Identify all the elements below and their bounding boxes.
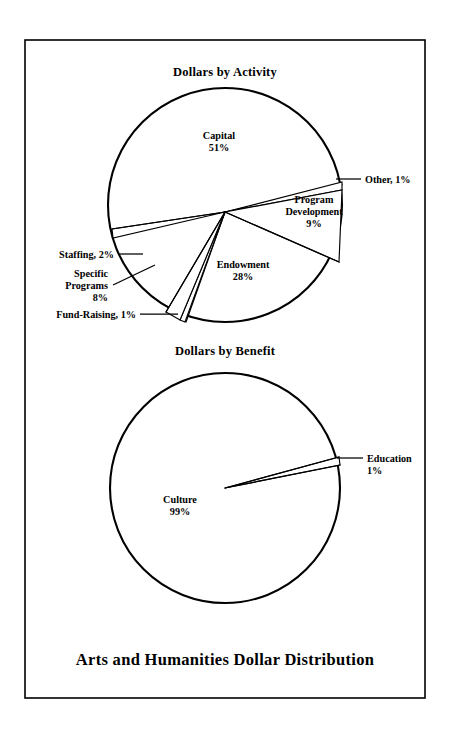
chart1-label-fund-raising: Fund-Raising, 1% [56,309,178,320]
chart2-label-culture-value: 99% [170,506,190,517]
chart2-label-education-value: 1% [367,465,382,476]
figure-root: Dollars by Activity Capital 51% [0,0,449,731]
chart2-label-education-name: Education [367,453,412,464]
chart1-label-progdev-value: 9% [306,218,321,229]
chart1-label-staffing-text: Staffing, 2% [59,249,114,260]
chart1-label-other: Other, 1% [336,174,410,185]
chart1-label-endowment-value: 28% [233,271,253,282]
chart1-label-other-text: Other, 1% [365,174,410,185]
chart1-label-progdev-line1: Program [295,194,334,205]
chart1-label-endowment-name: Endowment [217,259,270,270]
arts-humanities-figure: Dollars by Activity Capital 51% [0,0,449,731]
chart1-label-specific-line2: Programs [65,280,108,291]
chart2-label-education: Education 1% [337,453,412,476]
chart2-title: Dollars by Benefit [175,344,276,358]
chart1-label-fund-raising-text: Fund-Raising, 1% [56,309,136,320]
chart2-pie [110,373,340,603]
chart1-pie [108,88,342,322]
chart1-title: Dollars by Activity [173,65,277,79]
chart1-label-progdev-line2: Development [285,206,343,217]
chart1-label-specific-line1: Specific [74,268,108,279]
figure-caption: Arts and Humanities Dollar Distribution [76,650,374,669]
chart1-label-specific-value: 8% [93,292,108,303]
chart1-label-capital-value: 51% [209,142,229,153]
chart1-label-capital-name: Capital [203,130,235,141]
chart2-label-culture-name: Culture [163,494,197,505]
